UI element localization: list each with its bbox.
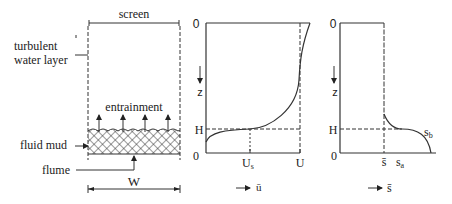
concentration-axis-label: s̄ bbox=[387, 181, 392, 195]
velocity-axis-label: ū bbox=[256, 181, 262, 193]
concentration-profile-plot: 0 0 z H s̄ sa sb s̄ bbox=[329, 17, 436, 195]
diagram-canvas: screen turbulent water layer entrainment… bbox=[0, 0, 452, 204]
flume-schematic: screen turbulent water layer entrainment… bbox=[14, 7, 180, 193]
concentration-sa-label: sa bbox=[396, 155, 405, 170]
velocity-origin-bottom: 0 bbox=[193, 149, 199, 163]
fluid-mud-label: fluid mud bbox=[20, 138, 67, 152]
concentration-H-label: H bbox=[329, 123, 338, 137]
velocity-profile-curve bbox=[206, 23, 310, 142]
concentration-z-label: z bbox=[332, 86, 338, 98]
velocity-profile-plot: 0 0 z H Us U ū bbox=[193, 17, 310, 193]
turbulent-label-line1: turbulent bbox=[14, 39, 58, 53]
screen-label: screen bbox=[119, 7, 150, 21]
velocity-origin-top: 0 bbox=[193, 17, 200, 31]
flume-label: flume bbox=[42, 163, 70, 177]
velocity-z-label: z bbox=[197, 86, 203, 98]
entrainment-label: entrainment bbox=[105, 100, 163, 114]
width-label: W bbox=[128, 174, 141, 189]
flume-leader bbox=[76, 156, 134, 170]
concentration-origin-top: 0 bbox=[330, 17, 337, 31]
concentration-origin-bottom: 0 bbox=[331, 149, 337, 163]
concentration-sb-label: sb bbox=[424, 125, 433, 140]
concentration-sbar-label: s̄ bbox=[382, 155, 387, 169]
velocity-H-label: H bbox=[195, 123, 204, 137]
fluid-mud-layer bbox=[88, 129, 180, 154]
turbulent-label-line2: water layer bbox=[14, 53, 68, 67]
velocity-Us-label: Us bbox=[242, 156, 254, 171]
velocity-U-label: U bbox=[296, 156, 305, 170]
